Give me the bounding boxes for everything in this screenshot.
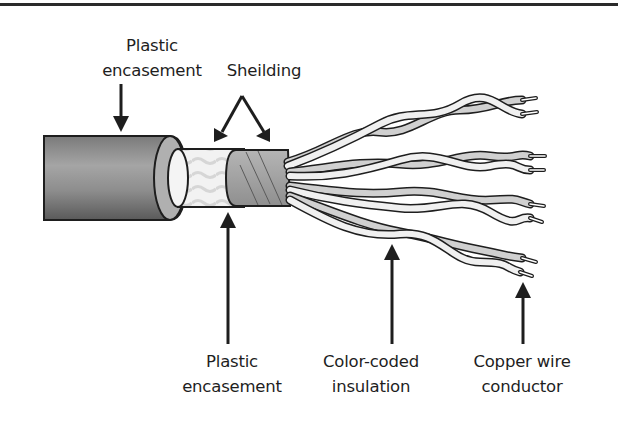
label-top-plastic-encasement: Plastic encasement bbox=[82, 33, 222, 83]
label-line: insulation bbox=[306, 374, 436, 399]
outer-jacket bbox=[44, 136, 186, 220]
label-copper-wire-conductor: Copper wire conductor bbox=[457, 349, 587, 399]
label-line: Plastic bbox=[162, 349, 302, 374]
label-line: encasement bbox=[162, 374, 302, 399]
label-shielding: Sheilding bbox=[214, 58, 314, 83]
twisted-pairs bbox=[288, 98, 545, 276]
twisted-pair-2 bbox=[290, 155, 545, 177]
shield-braid bbox=[226, 150, 290, 206]
label-line: Plastic bbox=[82, 33, 222, 58]
label-color-coded-insulation: Color-coded insulation bbox=[306, 349, 436, 399]
arrow-shielding-right-icon bbox=[242, 96, 270, 142]
label-bottom-plastic-encasement: Plastic encasement bbox=[162, 349, 302, 399]
label-line: Color-coded bbox=[306, 349, 436, 374]
arrow-shielding-left-icon bbox=[214, 96, 242, 142]
arrow-bottom-plastic-icon bbox=[220, 212, 236, 344]
arrow-insulation-icon bbox=[384, 244, 400, 344]
arrow-top-plastic-icon bbox=[113, 84, 129, 132]
label-line: conductor bbox=[457, 374, 587, 399]
label-line: encasement bbox=[82, 58, 222, 83]
arrow-conductor-icon bbox=[515, 282, 531, 344]
label-line: Copper wire bbox=[457, 349, 587, 374]
label-line: Sheilding bbox=[214, 58, 314, 83]
